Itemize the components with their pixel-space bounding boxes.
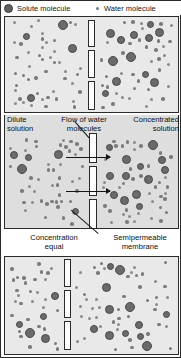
water-molecule <box>101 84 105 88</box>
water-molecule <box>12 278 16 282</box>
solute-molecule <box>106 144 113 151</box>
water-molecule <box>157 323 161 327</box>
water-molecule <box>54 342 58 346</box>
water-molecule <box>91 307 94 310</box>
water-molecule <box>111 102 115 106</box>
water-molecule <box>53 61 57 65</box>
water-molecule <box>64 145 68 149</box>
water-molecule <box>45 41 48 44</box>
water-molecule <box>15 84 19 88</box>
water-molecule <box>100 262 104 266</box>
water-molecule <box>34 76 38 80</box>
solute-molecule <box>122 172 130 180</box>
solute-molecule <box>41 334 50 343</box>
water-molecule <box>47 163 50 166</box>
solute-molecule <box>122 330 129 337</box>
water-molecule <box>41 46 44 49</box>
water-molecule <box>14 102 17 105</box>
water-molecule <box>52 90 55 93</box>
water-molecule <box>125 220 129 224</box>
water-molecule <box>117 323 120 326</box>
water-molecule <box>125 208 129 212</box>
water-molecule <box>116 328 119 331</box>
concentration-equal-label: Concentration equal <box>18 234 90 251</box>
water-molecule <box>131 20 135 24</box>
water-molecule <box>112 320 116 324</box>
solute-molecule <box>144 175 153 184</box>
solute-molecule <box>142 341 152 351</box>
solute-molecule <box>68 44 77 53</box>
water-molecule <box>100 58 104 62</box>
water-molecule <box>117 308 121 312</box>
water-molecule <box>44 70 48 74</box>
water-molecule <box>167 63 170 66</box>
water-molecule <box>146 332 150 336</box>
water-molecule <box>121 144 125 148</box>
water-molecule <box>115 92 118 95</box>
water-molecule <box>62 216 66 220</box>
water-molecule <box>27 78 31 82</box>
water-molecule <box>30 104 33 107</box>
water-molecule <box>133 141 136 144</box>
water-molecule <box>169 347 173 351</box>
solute-molecule <box>102 90 109 97</box>
water-molecule <box>164 192 167 195</box>
water-molecule <box>41 98 44 101</box>
water-molecule <box>46 271 50 275</box>
water-molecule <box>88 317 91 320</box>
solute-molecule <box>90 325 98 333</box>
water-molecule <box>41 37 45 41</box>
water-molecule <box>145 45 149 49</box>
water-molecule <box>45 202 49 206</box>
water-molecule <box>15 289 19 293</box>
solute-molecule <box>137 163 144 170</box>
water-molecule <box>139 144 143 148</box>
water-molecule <box>37 178 40 181</box>
water-molecule <box>83 337 86 340</box>
water-molecule <box>99 325 102 328</box>
solute-molecule <box>25 154 32 161</box>
water-molecule <box>128 215 131 218</box>
water-molecule <box>73 105 77 109</box>
water-molecule <box>147 88 151 92</box>
solute-molecule <box>54 150 63 159</box>
membrane-pore <box>64 259 71 287</box>
membrane-pore <box>89 199 97 229</box>
water-molecule <box>150 60 153 63</box>
water-molecule <box>164 261 168 265</box>
solute-molecule <box>117 36 125 44</box>
water-molecule <box>162 45 165 48</box>
solute-molecule <box>17 164 27 174</box>
water-molecule <box>161 97 165 101</box>
water-molecule <box>159 206 163 210</box>
solute-molecule <box>58 20 68 30</box>
water-molecule <box>135 274 139 278</box>
water-molecule <box>155 296 159 300</box>
water-molecule <box>59 163 62 166</box>
water-molecule <box>126 140 130 144</box>
water-molecule <box>56 183 60 187</box>
water-molecule <box>122 213 125 216</box>
water-molecule <box>37 19 40 22</box>
legend-label-solute: Solute molecule <box>17 4 70 13</box>
water-molecule <box>71 82 74 85</box>
water-molecule <box>74 23 77 26</box>
water-molecule <box>63 77 67 81</box>
water-molecule <box>68 149 72 153</box>
water-molecule <box>114 348 118 352</box>
water-molecule <box>138 285 142 289</box>
solute-molecule <box>23 33 30 40</box>
water-molecule <box>159 219 163 223</box>
water-molecule <box>26 318 30 322</box>
water-molecule <box>24 281 28 285</box>
dilute-solution-label: Dilute solution <box>7 116 45 133</box>
water-molecule <box>14 300 17 303</box>
water-molecule <box>83 293 87 297</box>
water-molecule <box>41 32 44 35</box>
membrane-pore <box>88 81 95 110</box>
water-molecule <box>14 89 17 92</box>
water-molecule <box>163 197 167 201</box>
water-molecule <box>50 267 53 270</box>
water-molecule <box>150 217 153 220</box>
water-molecule <box>58 61 61 64</box>
